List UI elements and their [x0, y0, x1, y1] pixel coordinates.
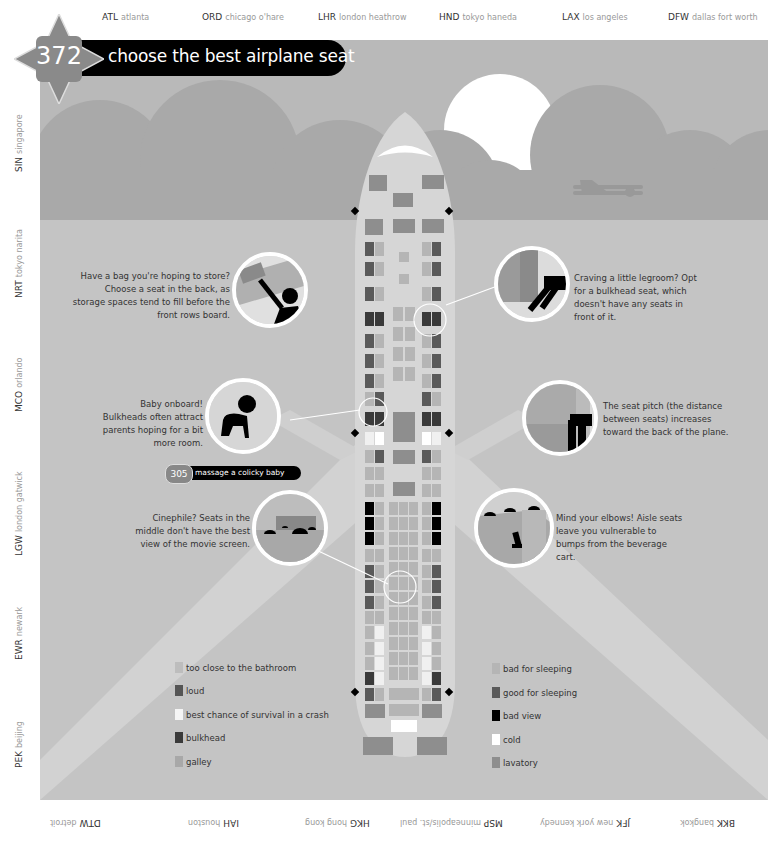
seat [422, 580, 431, 593]
seat [422, 704, 442, 718]
seat [422, 549, 431, 562]
seat [432, 484, 441, 497]
seat [393, 193, 413, 207]
seat [399, 652, 408, 665]
callout-cinephile-image [252, 490, 328, 566]
seat [375, 392, 384, 406]
seat [375, 287, 384, 301]
legend-swatch [492, 757, 500, 768]
seat [375, 374, 384, 388]
callout-baby-image [205, 378, 281, 454]
seat [389, 562, 398, 575]
seat [389, 517, 398, 530]
seat [422, 312, 431, 326]
seat [365, 704, 385, 718]
seat [409, 622, 418, 635]
seat [391, 720, 417, 732]
seat [393, 347, 403, 361]
airport-label: HKGhong kong [305, 818, 370, 828]
seat [365, 467, 374, 480]
legend-swatch [175, 662, 183, 673]
callout-elbows-text: Mind your elbows! Aisle seats leave you … [556, 512, 686, 564]
seat [389, 502, 398, 515]
legend-item: good for sleeping [492, 687, 577, 698]
legend-swatch [175, 685, 183, 696]
seat [422, 334, 431, 348]
airport-label: ORDchicago o'hare [202, 12, 284, 22]
seat [365, 657, 374, 670]
seat [389, 637, 398, 650]
seat [432, 688, 441, 701]
seat [389, 607, 398, 620]
seat [375, 354, 384, 368]
seat [363, 737, 393, 755]
legend-swatch [492, 710, 500, 721]
seat [375, 517, 384, 530]
seat [409, 637, 418, 650]
seat [422, 432, 431, 445]
seat [365, 484, 374, 497]
seat [409, 502, 418, 515]
seat [375, 262, 384, 276]
seat [422, 502, 431, 515]
seat [389, 652, 398, 665]
airport-label: PEKbeijing [14, 721, 24, 768]
callout-legroom-text: Craving a little legroom? Opt for a bulk… [574, 272, 704, 324]
seat [389, 688, 419, 700]
seat [432, 262, 441, 276]
seat [389, 532, 398, 545]
seat [365, 354, 374, 368]
seat [399, 607, 408, 620]
seat [422, 467, 431, 480]
seat [422, 517, 431, 530]
callout-cinephile-text: Cinephile? Seats in the middle don't hav… [130, 512, 250, 551]
seat [405, 347, 415, 361]
seat [365, 596, 374, 609]
seat [389, 577, 398, 590]
seat [422, 287, 431, 301]
seat [405, 367, 415, 381]
seat [375, 242, 384, 256]
airport-label: LGWlondon gatwick [14, 471, 24, 556]
seat [375, 532, 384, 545]
airport-label: NRTtokyo narita [14, 229, 24, 298]
crossref-link[interactable]: 305 massage a colicky baby [165, 464, 301, 482]
seat [365, 626, 374, 639]
seat [417, 737, 447, 755]
airplane-fuselage [355, 112, 455, 762]
seat [365, 688, 374, 701]
seat [393, 307, 403, 321]
seat [365, 262, 374, 276]
seat [393, 412, 415, 442]
seat [422, 672, 431, 685]
seat [432, 596, 441, 609]
seat [399, 667, 408, 680]
seat [432, 354, 441, 368]
seat [432, 334, 441, 348]
seat [432, 450, 441, 463]
seat [365, 287, 374, 301]
legend-swatch [492, 734, 500, 745]
callout-storage-text: Have a bag you're hoping to store? Choos… [70, 270, 230, 322]
seat [399, 637, 408, 650]
seat [389, 592, 398, 605]
seat [432, 657, 441, 670]
seat [432, 287, 441, 301]
seat [432, 672, 441, 685]
seat [432, 432, 441, 445]
airport-label: IAHhouston [188, 818, 239, 828]
seat [365, 312, 374, 326]
seat [422, 532, 431, 545]
seat [422, 175, 444, 189]
seat [422, 242, 431, 256]
seat [432, 517, 441, 530]
seat [409, 652, 418, 665]
seat [422, 450, 431, 463]
legend-item: too close to the bathroom [175, 662, 296, 673]
seat [422, 626, 431, 639]
seat [422, 565, 431, 578]
seat [369, 175, 387, 191]
seat [432, 611, 441, 624]
seat [409, 592, 418, 605]
seat [365, 642, 374, 655]
